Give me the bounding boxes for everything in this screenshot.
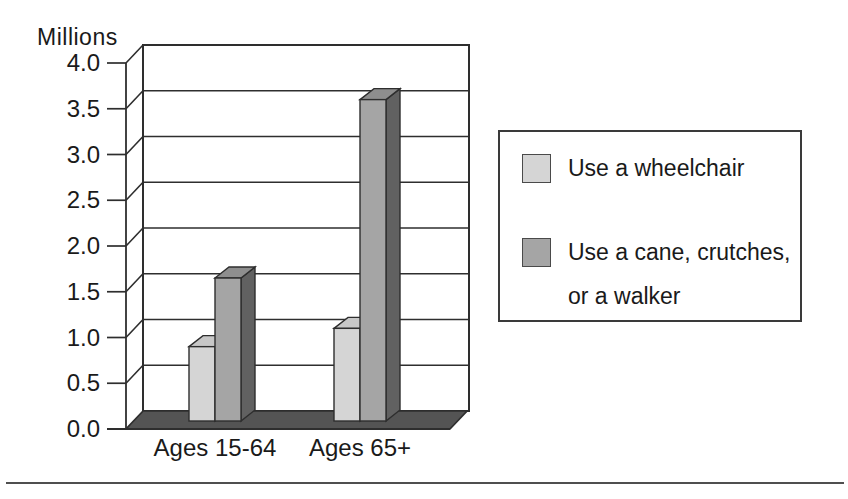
y-tick-depth-connector — [126, 320, 143, 338]
y-tick-label: 2.5 — [67, 186, 100, 213]
y-tick-depth-connector — [126, 45, 143, 63]
y-tick-depth-connector — [126, 137, 143, 155]
y-tick-depth-connector — [126, 365, 143, 383]
bar-cane-1 — [360, 100, 386, 421]
bottom-divider — [6, 482, 844, 484]
legend-swatch-wheelchair — [522, 154, 551, 183]
y-tick-label: 3.5 — [67, 95, 100, 122]
legend-swatch-cane — [522, 238, 551, 267]
bar-cane-0 — [215, 278, 241, 421]
chart-floor — [126, 411, 467, 429]
bar-side-cane-0 — [241, 267, 255, 421]
y-tick-label: 0.0 — [67, 415, 100, 442]
legend-label-cane: Use a cane, crutches, or a walker — [568, 230, 806, 318]
legend-item-cane: Use a cane, crutches, or a walker — [522, 238, 806, 318]
bar-wheelchair-1 — [334, 328, 360, 421]
legend-item-wheelchair: Use a wheelchair — [522, 154, 744, 183]
y-tick-depth-connector — [126, 274, 143, 292]
y-tick-label: 3.0 — [67, 141, 100, 168]
page: Millions 0.00.51.01.52.02.53.03.54.0Ages… — [0, 0, 848, 499]
x-category-label: Ages 15-64 — [154, 434, 277, 461]
legend: Use a wheelchair Use a cane, crutches, o… — [498, 130, 802, 322]
y-tick-depth-connector — [126, 228, 143, 246]
y-tick-label: 2.0 — [67, 232, 100, 259]
bar-side-cane-1 — [386, 89, 400, 421]
legend-label-wheelchair: Use a wheelchair — [568, 154, 744, 183]
y-tick-depth-connector — [126, 182, 143, 200]
x-category-label: Ages 65+ — [309, 434, 411, 461]
y-tick-depth-connector — [126, 91, 143, 109]
y-tick-label: 1.0 — [67, 324, 100, 351]
y-tick-label: 4.0 — [67, 49, 100, 76]
y-tick-label: 1.5 — [67, 278, 100, 305]
bar-wheelchair-0 — [189, 347, 215, 421]
y-tick-label: 0.5 — [67, 369, 100, 396]
